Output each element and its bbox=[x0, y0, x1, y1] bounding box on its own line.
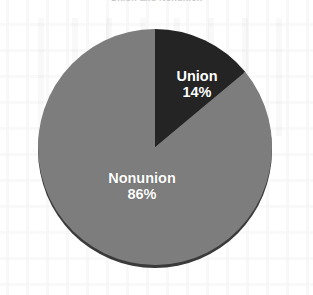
pie-chart-figure: Union and Nonunion Union 14% Nonunion 86… bbox=[0, 0, 313, 295]
pie-chart-graphic bbox=[0, 0, 313, 295]
